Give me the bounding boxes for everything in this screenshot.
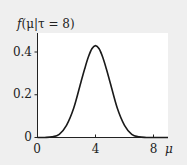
- y-title-rest: (μ|τ = 8): [21, 17, 74, 31]
- ytick-label-0: 0: [24, 130, 32, 144]
- xtick-label-8: 8: [150, 142, 158, 156]
- ytick-label-0.2: 0.2: [13, 87, 32, 101]
- ytick-label-0.4: 0.4: [13, 45, 32, 59]
- xtick-label-0: 0: [33, 142, 41, 156]
- x-axis-title: μ: [165, 142, 173, 156]
- y-axis-title: f(μ|τ = 8): [16, 17, 75, 31]
- plot-area: [37, 33, 168, 137]
- xtick-label-4: 4: [92, 142, 100, 156]
- chart: f(μ|τ = 8) 0.4 0.2 0 0 4 8 μ: [0, 0, 187, 165]
